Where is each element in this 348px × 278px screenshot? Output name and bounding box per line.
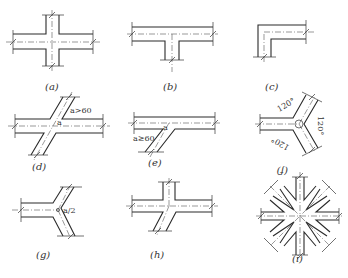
panel-b-t-junction: (b): [127, 22, 218, 92]
angle-f-2: 120°: [316, 116, 325, 135]
panel-label-b: (b): [163, 81, 177, 92]
panel-label-a: (a): [45, 81, 59, 92]
panel-g-y-junction: a/2 (g): [12, 184, 84, 260]
panel-a-cross-junction: (a): [6, 10, 100, 92]
panel-h-cross-oblique-leg: (h): [126, 178, 218, 260]
wall-junction-diagram: (a) (b) (c) a>60 a (d) a≥60 a: [0, 0, 348, 278]
panel-label-e: (e): [148, 157, 162, 168]
annotation-g: a/2: [63, 206, 76, 215]
panel-label-d: (d): [32, 161, 46, 172]
panel-d-oblique-cross: a>60 a (d): [8, 92, 110, 172]
panel-label-c: (c): [265, 81, 279, 92]
panel-c-l-corner: (c): [253, 20, 316, 92]
angle-f-1: 120°: [276, 96, 297, 113]
annotation-e: a≥60: [133, 134, 155, 143]
panel-label-h: (h): [150, 249, 164, 260]
panel-label-f: (f): [276, 166, 288, 177]
panel-i-radial-junction: (i): [256, 172, 344, 264]
panel-f-y-junction-120: 120° 120° 120° (f): [255, 92, 325, 177]
angle-f-3: 120°: [270, 135, 291, 152]
annotation-d: a>60: [70, 106, 92, 115]
panel-e-oblique-t: a≥60 a (e): [128, 112, 220, 168]
angle-mark-d: a: [57, 118, 62, 127]
panel-label-i: (i): [292, 253, 303, 264]
panel-label-g: (g): [36, 249, 50, 260]
angle-mark-e: a: [163, 123, 168, 132]
